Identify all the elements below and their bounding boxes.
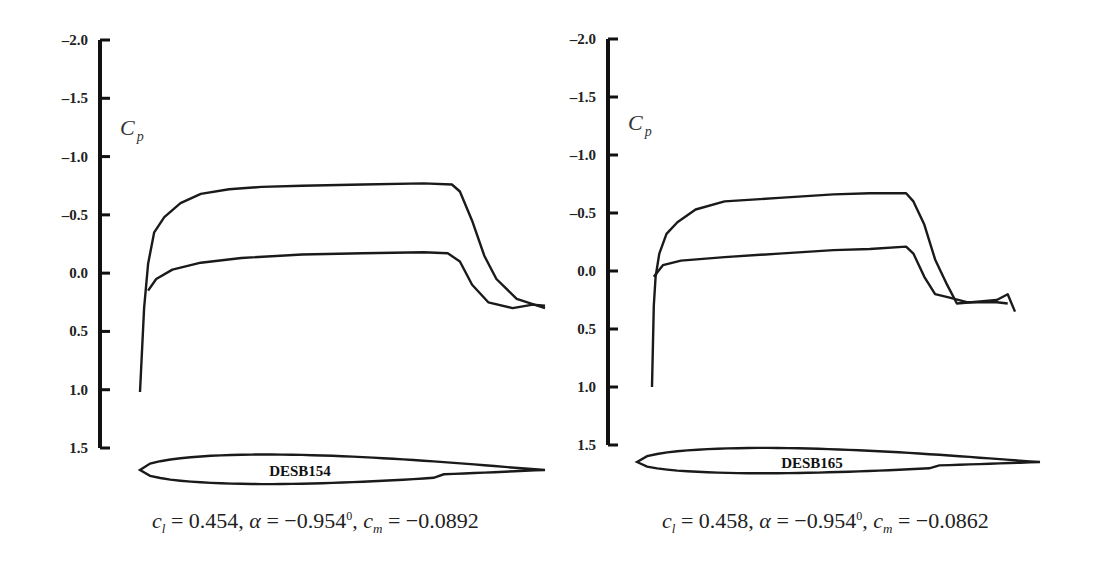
y-tick-label: –0.5 [61,207,88,223]
airfoil-name: DESB165 [781,455,843,471]
series-lower-surface [148,252,545,308]
y-tick-label: 0.0 [577,263,596,279]
y-tick-label: –1.0 [569,147,596,163]
y-tick-label: 1.0 [69,382,88,398]
y-axis-label: Cp [628,110,652,139]
y-tick-label: 1.0 [577,379,596,395]
y-tick-label: –1.5 [61,90,88,106]
airfoil-name: DESB154 [269,463,331,479]
cp-charts: –2.0–1.5–1.0–0.50.00.51.01.5CpDESB154–2.… [0,0,1096,566]
y-tick-label: 0.0 [69,265,88,281]
series-upper-surface [140,183,545,392]
y-tick-label: –1.0 [61,149,88,165]
y-tick-label: –1.5 [569,89,596,105]
y-tick-label: 1.5 [577,437,596,453]
coefficients-right: cl = 0.458, α = −0.9540, cm = −0.0862 [662,508,989,537]
series-upper-surface [652,193,1015,387]
y-tick-label: 1.5 [69,440,88,456]
airfoil-outline [140,455,545,485]
y-tick-label: –2.0 [61,32,88,48]
y-tick-label: 0.5 [69,323,88,339]
y-tick-label: –2.0 [569,31,596,47]
coefficients-left: cl = 0.454, α = −0.9540, cm = −0.0892 [152,508,479,537]
series-lower-surface [654,247,1008,304]
y-tick-label: –0.5 [569,205,596,221]
y-axis-label: Cp [120,115,144,144]
y-tick-label: 0.5 [577,321,596,337]
